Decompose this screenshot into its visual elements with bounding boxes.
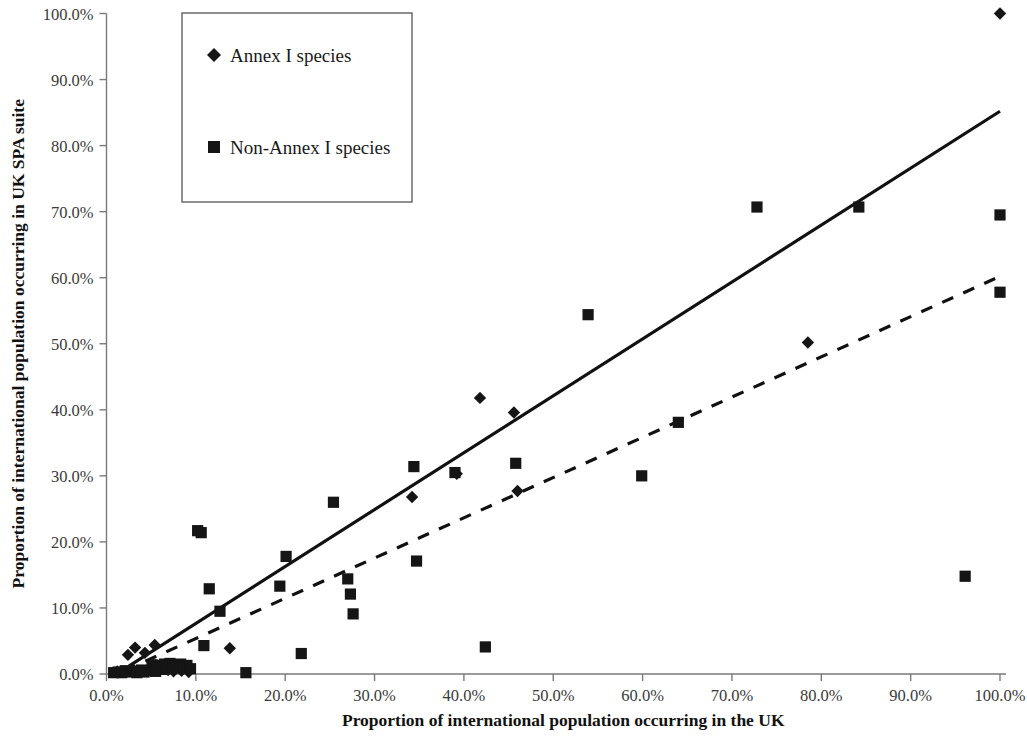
x-tick-label: 90.0% (889, 686, 932, 705)
data-point-square (411, 555, 422, 566)
legend-square-icon (208, 141, 220, 153)
data-point-diamond (994, 7, 1006, 19)
x-tick-label: 100.0% (975, 686, 1026, 705)
data-point-square (348, 608, 359, 619)
y-tick-label: 20.0% (51, 533, 94, 552)
data-point-square (185, 663, 196, 674)
y-axis-title: Proportion of international population o… (8, 99, 28, 589)
legend-box (182, 13, 412, 202)
x-tick-label: 30.0% (353, 686, 396, 705)
data-point-diamond (149, 639, 161, 651)
data-point-square (510, 458, 521, 469)
scatter-plot: 0.0%10.0%20.0%30.0%40.0%50.0%60.0%70.0%8… (0, 0, 1027, 737)
data-point-square (296, 648, 307, 659)
x-axis-title: Proportion of international population o… (342, 710, 785, 730)
data-point-square (214, 606, 225, 617)
data-point-square (328, 497, 339, 508)
y-tick-label: 90.0% (51, 71, 94, 90)
y-tick-label: 0.0% (59, 665, 94, 684)
chart-legend: Annex I speciesNon-Annex I species (182, 13, 412, 202)
data-point-square (994, 287, 1005, 298)
data-point-square (198, 640, 209, 651)
x-tick-label: 70.0% (711, 686, 754, 705)
data-point-square (280, 551, 291, 562)
y-axis-ticks: 0.0%10.0%20.0%30.0%40.0%50.0%60.0%70.0%8… (43, 5, 107, 685)
legend-item-label: Annex I species (230, 45, 351, 66)
y-tick-label: 30.0% (51, 467, 94, 486)
data-point-square (636, 470, 647, 481)
legend-item-label: Non-Annex I species (230, 137, 390, 158)
data-point-square (994, 209, 1005, 220)
x-tick-label: 50.0% (532, 686, 575, 705)
data-point-square (449, 467, 460, 478)
data-point-square (673, 417, 684, 428)
x-axis-ticks: 0.0%10.0%20.0%30.0%40.0%50.0%60.0%70.0%8… (89, 674, 1025, 705)
data-point-square (408, 461, 419, 472)
y-tick-label: 70.0% (51, 203, 94, 222)
y-tick-label: 50.0% (51, 335, 94, 354)
y-tick-label: 40.0% (51, 401, 94, 420)
data-point-square (853, 201, 864, 212)
data-point-square (582, 309, 593, 320)
data-point-square (480, 641, 491, 652)
series-non-annex-i (108, 201, 1006, 678)
data-point-diamond (474, 392, 486, 404)
x-tick-label: 20.0% (264, 686, 307, 705)
data-point-diamond (224, 642, 236, 654)
data-point-square (196, 527, 207, 538)
data-point-square (751, 201, 762, 212)
data-point-square (345, 588, 356, 599)
legend-item-non-annex-i[interactable]: Non-Annex I species (208, 137, 390, 158)
x-tick-label: 10.0% (175, 686, 218, 705)
chart-figure: 0.0%10.0%20.0%30.0%40.0%50.0%60.0%70.0%8… (0, 0, 1027, 737)
data-point-square (274, 581, 285, 592)
data-point-square (204, 583, 215, 594)
trendline-dashed (124, 276, 1000, 670)
x-tick-label: 0.0% (89, 686, 124, 705)
data-point-diamond (406, 491, 418, 503)
y-tick-label: 60.0% (51, 269, 94, 288)
data-point-square (960, 571, 971, 582)
y-tick-label: 10.0% (51, 599, 94, 618)
y-tick-label: 80.0% (51, 137, 94, 156)
y-tick-label: 100.0% (43, 5, 94, 24)
data-point-diamond (802, 336, 814, 348)
x-tick-label: 60.0% (621, 686, 664, 705)
data-point-square (342, 573, 353, 584)
data-point-diamond (511, 485, 523, 497)
x-tick-label: 40.0% (443, 686, 486, 705)
x-tick-label: 80.0% (800, 686, 843, 705)
data-point-square (240, 667, 251, 678)
